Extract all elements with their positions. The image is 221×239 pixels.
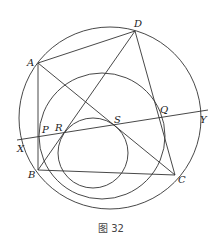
label-Q: Q [160,104,168,115]
quadrilateral-ADCB [38,31,175,175]
middle-circle [39,73,165,199]
label-S: S [114,114,121,125]
label-B: B [27,169,35,180]
geometry-figure: A D B C P R S Q Y X 图 32 [0,0,221,239]
label-A: A [26,57,34,68]
label-R: R [54,122,63,133]
label-Y: Y [200,114,208,125]
label-P: P [41,124,49,135]
label-X: X [16,143,25,154]
diagonal-BD [38,31,135,170]
label-D: D [133,18,142,29]
figure-caption: 图 32 [98,223,124,234]
outer-circle [19,27,201,209]
label-C: C [178,174,186,185]
